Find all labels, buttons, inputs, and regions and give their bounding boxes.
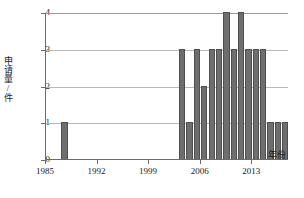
x-tick-label-1999: 1999 (131, 166, 165, 176)
x-tick-label-2013: 2013 (234, 166, 268, 176)
bar (253, 49, 259, 159)
bar-series (46, 13, 288, 159)
bar-chart: 申请量/件 01234 19851992199920062013 年份 (0, 0, 304, 198)
x-tick-label-2006: 2006 (183, 166, 217, 176)
bar (186, 122, 192, 159)
bar (223, 12, 229, 159)
bar (260, 49, 266, 159)
bar (245, 49, 251, 159)
bar (238, 12, 244, 159)
x-tick-1999 (148, 160, 149, 164)
x-tick-label-1985: 1985 (28, 166, 62, 176)
bar (216, 49, 222, 159)
x-tick-1992 (97, 160, 98, 164)
bar (194, 49, 200, 159)
x-tick-2006 (200, 160, 201, 164)
bar (61, 122, 67, 159)
bar (179, 49, 185, 159)
plot-area (45, 13, 288, 160)
y-axis-title: 申请量/件 (2, 56, 13, 102)
bar (201, 86, 207, 160)
x-axis-title: 年份 (268, 150, 286, 160)
x-tick-2013 (251, 160, 252, 164)
bar (231, 49, 237, 159)
x-tick-1985 (45, 160, 46, 164)
x-tick-label-1992: 1992 (80, 166, 114, 176)
bar (209, 49, 215, 159)
